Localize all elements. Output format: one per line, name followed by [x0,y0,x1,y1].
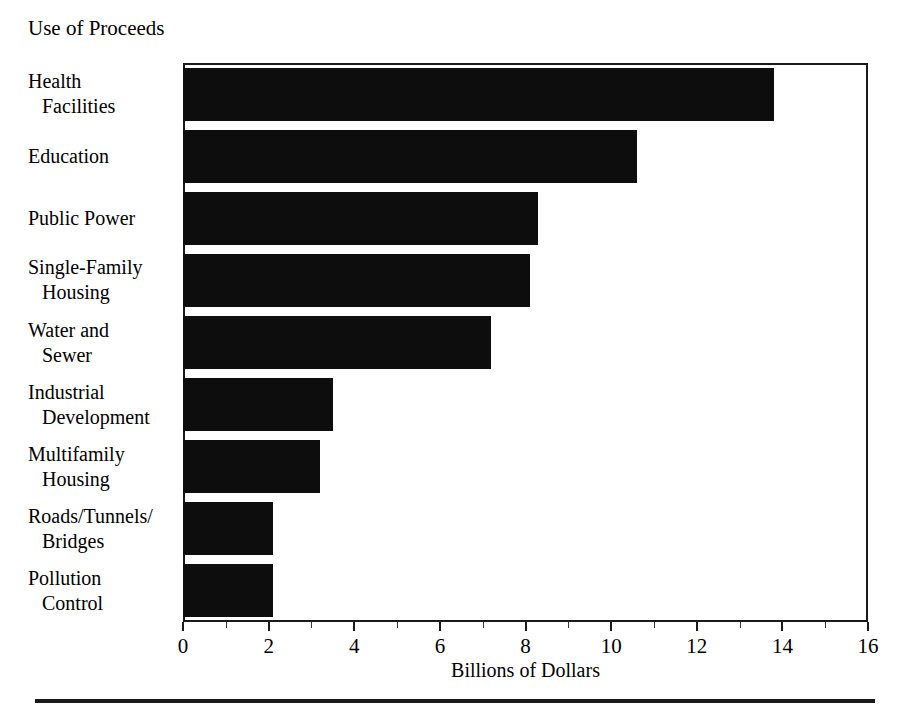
x-tick-major [696,622,698,631]
x-tick-label: 4 [334,634,374,659]
bars-layer [183,63,868,622]
x-tick-label: 10 [591,634,631,659]
bottom-rule [35,699,875,703]
x-tick-major [525,622,527,631]
category-label-line: Industrial [28,381,105,403]
x-tick-major [867,622,869,631]
x-tick-minor [483,622,484,628]
x-tick-major [182,622,184,631]
category-label-line: Education [28,145,109,167]
category-label-line: Multifamily [28,443,125,465]
category-label: Water andSewer [28,318,178,368]
category-label-line: Bridges [28,529,178,554]
bar [183,254,530,307]
category-label: Education [28,144,178,169]
x-tick-label: 2 [249,634,289,659]
bar [183,316,491,369]
category-label-line: Roads/Tunnels/ [28,505,153,527]
category-label-line: Facilities [28,94,178,119]
category-label: PollutionControl [28,566,178,616]
category-label-line: Public Power [28,207,135,229]
category-label: MultifamilyHousing [28,442,178,492]
x-tick-minor [740,622,741,628]
x-tick-label: 16 [848,634,888,659]
x-tick-minor [397,622,398,628]
category-label-line: Health [28,70,81,92]
x-tick-minor [226,622,227,628]
x-tick-major [781,622,783,631]
category-label-line: Housing [28,467,178,492]
x-tick-minor [311,622,312,628]
x-tick-major [353,622,355,631]
x-tick-label: 0 [163,634,203,659]
chart-title: Use of Proceeds [28,15,164,41]
x-tick-major [439,622,441,631]
category-label-line: Control [28,591,178,616]
category-label: Roads/Tunnels/Bridges [28,504,178,554]
x-tick-major [610,622,612,631]
x-tick-label: 6 [420,634,460,659]
x-tick-label: 14 [762,634,802,659]
bar [183,502,273,555]
x-tick-label: 12 [677,634,717,659]
x-tick-minor [568,622,569,628]
category-label: Public Power [28,206,178,231]
x-tick-label: 8 [506,634,546,659]
x-tick-major [268,622,270,631]
bar [183,68,774,121]
category-label: IndustrialDevelopment [28,380,178,430]
category-label-line: Pollution [28,567,101,589]
category-label-line: Development [28,405,178,430]
bar [183,192,538,245]
category-label-line: Housing [28,280,178,305]
bar [183,130,637,183]
bar [183,378,333,431]
category-label-line: Sewer [28,343,178,368]
category-label: HealthFacilities [28,69,178,119]
category-label: Single-FamilyHousing [28,255,178,305]
x-tick-minor [825,622,826,628]
bar [183,440,320,493]
bar [183,564,273,617]
category-label-line: Single-Family [28,256,142,278]
x-tick-minor [654,622,655,628]
x-axis-title: Billions of Dollars [183,658,868,682]
category-label-line: Water and [28,319,109,341]
category-axis-labels: HealthFacilitiesEducationPublic PowerSin… [0,63,183,622]
